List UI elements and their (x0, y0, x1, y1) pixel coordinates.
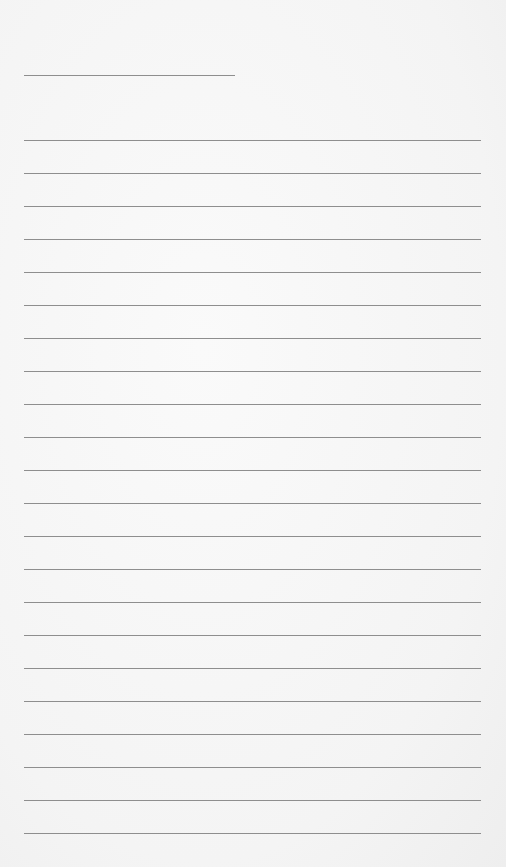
header-line (24, 75, 235, 76)
ruled-line (24, 140, 481, 141)
ruled-line (24, 173, 481, 174)
ruled-line (24, 437, 481, 438)
ruled-line (24, 239, 481, 240)
ruled-line (24, 536, 481, 537)
lined-paper-page (0, 0, 506, 867)
ruled-line (24, 206, 481, 207)
ruled-line (24, 767, 481, 768)
ruled-line (24, 338, 481, 339)
ruled-line (24, 272, 481, 273)
ruled-line (24, 569, 481, 570)
ruled-line (24, 305, 481, 306)
ruled-line (24, 635, 481, 636)
ruled-line (24, 701, 481, 702)
ruled-line (24, 371, 481, 372)
ruled-line (24, 470, 481, 471)
ruled-line (24, 404, 481, 405)
ruled-line (24, 800, 481, 801)
ruled-line (24, 503, 481, 504)
ruled-line (24, 833, 481, 834)
ruled-line (24, 668, 481, 669)
ruled-line (24, 734, 481, 735)
ruled-line (24, 602, 481, 603)
